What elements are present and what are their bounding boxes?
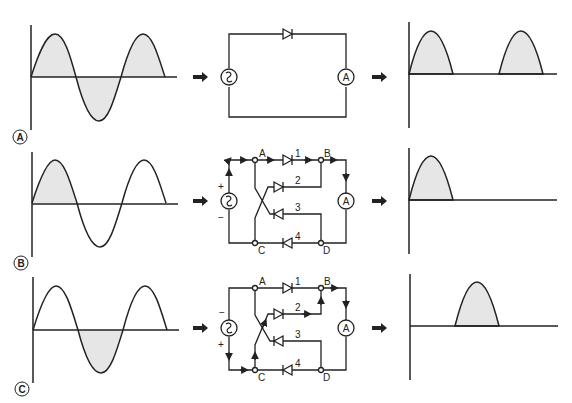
svg-text:4: 4 — [295, 231, 301, 242]
circuit-c — [221, 283, 354, 375]
row-c: C — [15, 274, 558, 396]
svg-text:−: − — [218, 212, 224, 223]
svg-text:1: 1 — [295, 276, 301, 287]
svg-text:A: A — [343, 196, 350, 207]
input-wave-a — [31, 25, 177, 130]
svg-text:+: + — [218, 181, 224, 192]
svg-text:+: + — [218, 339, 224, 350]
svg-text:C: C — [258, 245, 265, 256]
svg-text:2: 2 — [295, 302, 301, 313]
rectifier-diagram: A A — [0, 0, 572, 403]
row-a: A A — [13, 22, 557, 144]
input-wave-c — [33, 277, 179, 383]
output-wave-a — [409, 22, 557, 128]
svg-text:2: 2 — [295, 175, 301, 186]
circuit-a — [221, 29, 354, 117]
svg-text:B: B — [324, 276, 331, 287]
svg-text:B: B — [324, 148, 331, 159]
svg-text:4: 4 — [295, 358, 301, 369]
svg-text:D: D — [323, 245, 330, 256]
svg-text:B: B — [17, 258, 24, 269]
output-wave-c — [410, 274, 558, 380]
row-b: B — [14, 148, 557, 270]
diode-icon — [283, 29, 292, 39]
circuit-b — [221, 155, 354, 248]
svg-text:1: 1 — [295, 148, 301, 159]
svg-text:C: C — [258, 372, 265, 383]
svg-text:3: 3 — [295, 329, 301, 340]
svg-text:A: A — [259, 276, 266, 287]
output-wave-b — [409, 148, 557, 254]
svg-text:A: A — [16, 132, 23, 143]
svg-text:C: C — [18, 384, 25, 395]
svg-text:A: A — [343, 72, 350, 83]
svg-text:A: A — [343, 323, 350, 334]
input-wave-b — [32, 152, 178, 257]
svg-text:3: 3 — [295, 202, 301, 213]
svg-text:D: D — [323, 372, 330, 383]
svg-text:A: A — [259, 148, 266, 159]
svg-text:−: − — [219, 307, 225, 318]
